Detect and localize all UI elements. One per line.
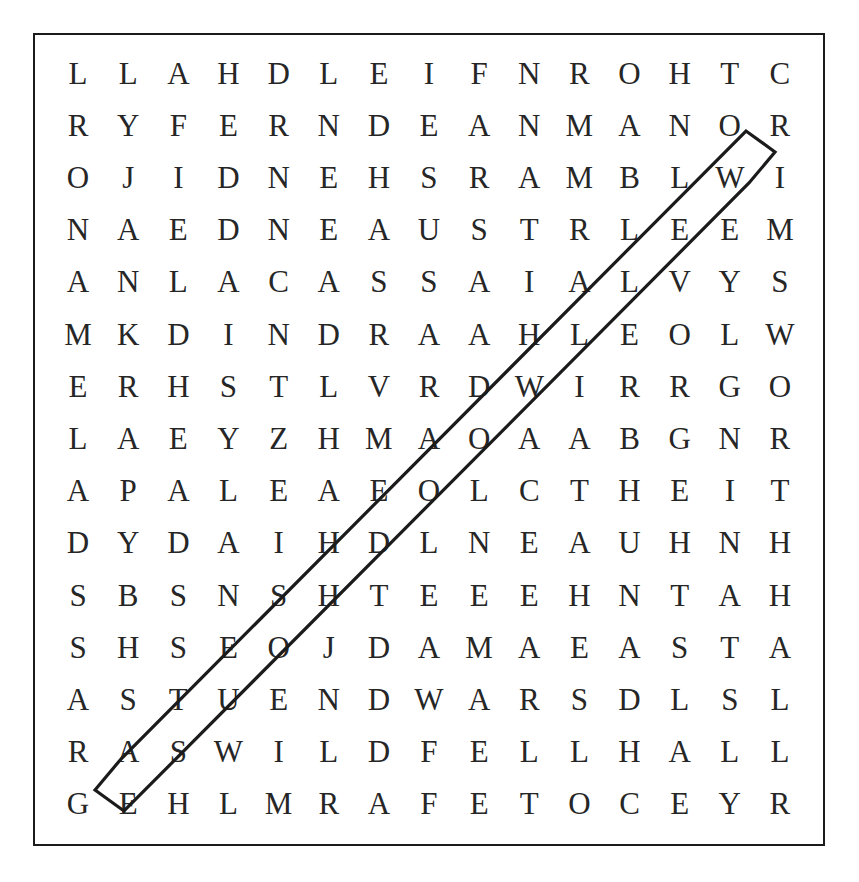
- letter-cell[interactable]: L: [604, 256, 654, 308]
- letter-cell[interactable]: E: [53, 360, 103, 412]
- letter-cell[interactable]: O: [53, 151, 103, 203]
- letter-cell[interactable]: I: [153, 151, 203, 203]
- letter-cell[interactable]: V: [354, 360, 404, 412]
- letter-cell[interactable]: I: [554, 360, 604, 412]
- letter-cell[interactable]: D: [153, 517, 203, 569]
- letter-cell[interactable]: A: [554, 517, 604, 569]
- letter-cell[interactable]: R: [454, 151, 504, 203]
- letter-cell[interactable]: S: [404, 256, 454, 308]
- letter-cell[interactable]: L: [655, 151, 705, 203]
- letter-cell[interactable]: L: [304, 47, 354, 99]
- letter-cell[interactable]: W: [404, 673, 454, 725]
- letter-cell[interactable]: L: [705, 308, 755, 360]
- letter-cell[interactable]: E: [454, 778, 504, 830]
- letter-cell[interactable]: H: [304, 569, 354, 621]
- letter-cell[interactable]: T: [504, 778, 554, 830]
- letter-cell[interactable]: M: [53, 308, 103, 360]
- letter-cell[interactable]: E: [354, 465, 404, 517]
- letter-cell[interactable]: R: [304, 778, 354, 830]
- letter-cell[interactable]: Y: [203, 412, 253, 464]
- letter-cell[interactable]: H: [153, 360, 203, 412]
- letter-cell[interactable]: D: [604, 673, 654, 725]
- letter-cell[interactable]: D: [304, 308, 354, 360]
- letter-cell[interactable]: R: [604, 360, 654, 412]
- letter-cell[interactable]: T: [655, 569, 705, 621]
- letter-cell[interactable]: T: [755, 465, 805, 517]
- letter-cell[interactable]: F: [454, 47, 504, 99]
- letter-cell[interactable]: C: [254, 256, 304, 308]
- letter-cell[interactable]: N: [504, 99, 554, 151]
- letter-cell[interactable]: D: [53, 517, 103, 569]
- letter-cell[interactable]: A: [304, 465, 354, 517]
- letter-cell[interactable]: R: [755, 412, 805, 464]
- letter-cell[interactable]: L: [705, 726, 755, 778]
- letter-cell[interactable]: A: [454, 308, 504, 360]
- letter-cell[interactable]: A: [454, 256, 504, 308]
- letter-cell[interactable]: N: [504, 47, 554, 99]
- letter-cell[interactable]: L: [755, 673, 805, 725]
- letter-cell[interactable]: N: [254, 204, 304, 256]
- letter-cell[interactable]: W: [504, 360, 554, 412]
- letter-cell[interactable]: L: [604, 204, 654, 256]
- letter-cell[interactable]: L: [53, 47, 103, 99]
- letter-cell[interactable]: R: [755, 778, 805, 830]
- letter-cell[interactable]: A: [554, 412, 604, 464]
- letter-cell[interactable]: K: [103, 308, 153, 360]
- letter-cell[interactable]: N: [103, 256, 153, 308]
- letter-cell[interactable]: A: [454, 99, 504, 151]
- letter-cell[interactable]: H: [203, 47, 253, 99]
- letter-cell[interactable]: Y: [103, 517, 153, 569]
- letter-cell[interactable]: A: [153, 465, 203, 517]
- letter-cell[interactable]: C: [504, 465, 554, 517]
- letter-cell[interactable]: E: [254, 465, 304, 517]
- letter-cell[interactable]: E: [655, 204, 705, 256]
- letter-cell[interactable]: W: [755, 308, 805, 360]
- letter-cell[interactable]: A: [454, 673, 504, 725]
- letter-cell[interactable]: L: [153, 256, 203, 308]
- letter-cell[interactable]: H: [755, 569, 805, 621]
- letter-cell[interactable]: E: [655, 465, 705, 517]
- letter-cell[interactable]: M: [454, 621, 504, 673]
- letter-cell[interactable]: A: [504, 151, 554, 203]
- letter-cell[interactable]: N: [454, 517, 504, 569]
- letter-cell[interactable]: G: [53, 778, 103, 830]
- letter-cell[interactable]: N: [203, 569, 253, 621]
- letter-cell[interactable]: E: [454, 569, 504, 621]
- letter-cell[interactable]: T: [554, 465, 604, 517]
- letter-cell[interactable]: I: [254, 517, 304, 569]
- letter-cell[interactable]: S: [655, 621, 705, 673]
- letter-cell[interactable]: E: [604, 308, 654, 360]
- letter-cell[interactable]: E: [304, 204, 354, 256]
- letter-cell[interactable]: E: [203, 99, 253, 151]
- letter-cell[interactable]: S: [404, 151, 454, 203]
- letter-cell[interactable]: L: [755, 726, 805, 778]
- letter-cell[interactable]: L: [203, 778, 253, 830]
- letter-cell[interactable]: P: [103, 465, 153, 517]
- letter-cell[interactable]: R: [755, 99, 805, 151]
- letter-cell[interactable]: E: [354, 47, 404, 99]
- letter-cell[interactable]: S: [153, 621, 203, 673]
- letter-cell[interactable]: T: [705, 621, 755, 673]
- letter-cell[interactable]: R: [53, 726, 103, 778]
- letter-cell[interactable]: D: [354, 673, 404, 725]
- letter-cell[interactable]: E: [254, 673, 304, 725]
- letter-cell[interactable]: A: [53, 256, 103, 308]
- letter-cell[interactable]: U: [604, 517, 654, 569]
- letter-cell[interactable]: B: [604, 412, 654, 464]
- letter-cell[interactable]: E: [504, 569, 554, 621]
- letter-cell[interactable]: J: [103, 151, 153, 203]
- letter-cell[interactable]: A: [304, 256, 354, 308]
- letter-cell[interactable]: H: [153, 778, 203, 830]
- letter-cell[interactable]: L: [554, 726, 604, 778]
- letter-cell[interactable]: S: [153, 569, 203, 621]
- letter-cell[interactable]: E: [404, 569, 454, 621]
- letter-cell[interactable]: Y: [103, 99, 153, 151]
- letter-cell[interactable]: L: [53, 412, 103, 464]
- letter-cell[interactable]: H: [103, 621, 153, 673]
- letter-cell[interactable]: M: [554, 151, 604, 203]
- letter-cell[interactable]: T: [153, 673, 203, 725]
- letter-cell[interactable]: R: [354, 308, 404, 360]
- letter-cell[interactable]: H: [354, 151, 404, 203]
- letter-cell[interactable]: D: [254, 47, 304, 99]
- letter-cell[interactable]: A: [655, 726, 705, 778]
